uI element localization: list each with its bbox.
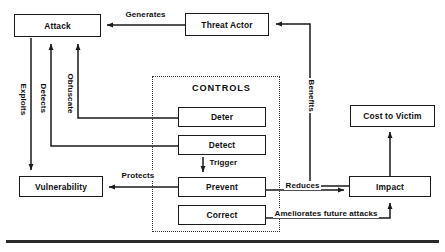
node-detect[interactable]: Detect xyxy=(178,135,266,155)
edge-label-benefits: Benefits xyxy=(307,78,316,113)
node-deter[interactable]: Deter xyxy=(178,107,266,127)
node-correct[interactable]: Correct xyxy=(178,205,266,225)
edge-label-generates: Generates xyxy=(124,10,167,19)
node-attack[interactable]: Attack xyxy=(14,14,101,37)
node-threat-actor[interactable]: Threat Actor xyxy=(185,13,269,36)
node-correct-label: Correct xyxy=(207,210,238,220)
node-vulnerability[interactable]: Vulnerability xyxy=(19,176,103,197)
node-prevent[interactable]: Prevent xyxy=(178,177,266,197)
node-cost-to-victim[interactable]: Cost to Victim xyxy=(350,105,435,127)
node-detect-label: Detect xyxy=(209,140,236,150)
node-impact-label: Impact xyxy=(376,182,404,192)
edge-label-trigger: Trigger xyxy=(208,158,239,167)
edge-label-obfuscate: Obfuscate xyxy=(66,72,75,115)
node-impact[interactable]: Impact xyxy=(349,176,431,197)
node-threat-actor-label: Threat Actor xyxy=(201,20,252,30)
controls-group-title: CONTROLS xyxy=(190,83,253,93)
edge-label-reduces: Reduces xyxy=(284,181,321,190)
edge-label-detects: Detects xyxy=(39,82,48,115)
node-attack-label: Attack xyxy=(44,21,71,31)
bottom-divider-rule xyxy=(6,240,439,243)
node-cost-to-victim-label: Cost to Victim xyxy=(363,111,421,121)
diagram-canvas: CONTROLS Attack Threat Actor Cost to Vic… xyxy=(0,0,445,252)
node-prevent-label: Prevent xyxy=(206,182,238,192)
node-vulnerability-label: Vulnerability xyxy=(35,182,87,192)
node-deter-label: Deter xyxy=(211,112,233,122)
edge-label-ameliorates: Ameliorates future attacks xyxy=(273,209,379,218)
edge-label-protects: Protects xyxy=(120,171,156,180)
edge-label-exploits: Exploits xyxy=(19,82,28,117)
